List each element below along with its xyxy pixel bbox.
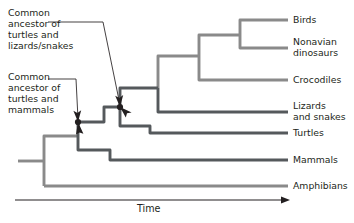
branch-nonavian-dinosaurs bbox=[240, 35, 288, 48]
branch-node1-to-node2 bbox=[78, 107, 120, 122]
branch-lizards-and-snakes bbox=[158, 88, 288, 112]
node-turtles-lizards-snakes bbox=[117, 104, 123, 110]
tip-label-crocodiles: Crocodiles bbox=[293, 75, 341, 86]
tip-label-mammals: Mammals bbox=[293, 155, 338, 166]
time-axis-arrowhead bbox=[281, 197, 290, 204]
branch-crocodiles bbox=[199, 56, 288, 80]
branch-birds bbox=[240, 20, 288, 35]
branch-archosaur-stem bbox=[158, 56, 199, 88]
tip-label-nonavian-dinosaurs: Nonavian dinosaurs bbox=[293, 37, 338, 59]
branch-amniote-stem bbox=[44, 136, 78, 161]
branch-mammals bbox=[78, 122, 288, 160]
callout-common-ancestor-turtles-mammals: Common ancestor of turtles and mammals bbox=[8, 72, 60, 116]
tip-label-birds: Birds bbox=[293, 15, 316, 26]
tip-label-lizards-and-snakes: Lizards and snakes bbox=[293, 101, 346, 123]
callout-common-ancestor-turtles-lizards-snakes: Common ancestor of turtles and lizards/s… bbox=[8, 8, 73, 52]
tip-label-amphibians: Amphibians bbox=[293, 181, 348, 192]
node-turtles-mammals bbox=[75, 119, 81, 125]
tip-label-turtles: Turtles bbox=[293, 128, 324, 139]
time-axis-label: Time bbox=[137, 203, 160, 214]
branch-avemetatarsalian-stem bbox=[199, 35, 240, 56]
phylogenetic-tree-figure: Birds Nonavian dinosaurs Crocodiles Liza… bbox=[0, 0, 354, 223]
branch-node2-upper bbox=[120, 88, 158, 107]
